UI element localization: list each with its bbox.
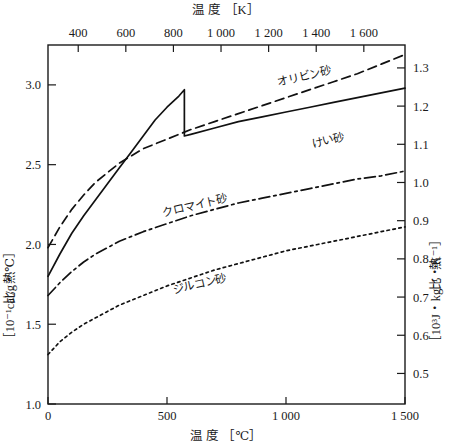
curve-4: [48, 227, 405, 355]
tick-label-right: 1.0: [413, 176, 429, 190]
data-curves: [48, 55, 405, 355]
tick-label-top: 800: [164, 26, 183, 40]
tick-label-bottom: 1 000: [272, 409, 300, 423]
bottom-axis-title: 温 度 ［℃］: [190, 428, 262, 443]
tick-label-bottom: 0: [45, 409, 51, 423]
tick-label-left: 3.0: [25, 78, 41, 92]
curve-label-1: オリビン砂: [276, 64, 333, 88]
tick-label-right: 1.1: [413, 138, 429, 152]
tick-label-right: 0.7: [413, 291, 429, 305]
tick-label-bottom: 500: [158, 409, 177, 423]
right-axis-ticks: [397, 68, 405, 374]
tick-label-right: 0.9: [413, 214, 429, 228]
curve-2: [48, 88, 405, 276]
tick-label-bottom: 1 500: [391, 409, 419, 423]
left-axis-title: 比 熱 ［10⁻¹cal/g・℃］: [3, 245, 17, 345]
curve-label-2: けい砂: [311, 130, 347, 149]
tick-label-right: 0.6: [413, 329, 429, 343]
curve-annotations: オリビン砂けい砂クロマイト砂ジルコン砂: [161, 64, 346, 296]
bottom-axis-ticks: [48, 397, 405, 404]
tick-label-left: 2.5: [25, 158, 41, 172]
left-axis-title-units: ［10⁻¹cal/g・℃］: [3, 245, 17, 345]
tick-label-top: 1 200: [255, 26, 283, 40]
tick-label-top: 600: [116, 26, 135, 40]
top-axis-tick-labels: 4006008001 0001 2001 4001 600: [69, 26, 378, 40]
right-axis-tick-labels: 0.50.60.70.80.91.01.11.21.3: [413, 61, 429, 381]
tick-label-right: 0.5: [413, 367, 429, 381]
specific-heat-chart: 4006008001 0001 2001 4001 600 05001 0001…: [0, 0, 450, 446]
tick-label-left: 1.0: [25, 398, 41, 412]
curve-1: [48, 55, 405, 248]
curve-3: [48, 171, 405, 295]
right-axis-title: 比 熱 ［10³J・kg⁻¹・K⁻¹］: [429, 233, 443, 348]
top-axis-ticks: [78, 45, 364, 52]
tick-label-right: 1.2: [413, 100, 429, 114]
tick-label-top: 1 400: [302, 26, 330, 40]
tick-label-left: 1.5: [25, 318, 41, 332]
tick-label-top: 1 000: [207, 26, 235, 40]
bottom-axis-tick-labels: 05001 0001 500: [45, 409, 419, 423]
left-axis-tick-labels: 1.01.52.02.53.0: [25, 78, 41, 411]
chart-figure: 4006008001 0001 2001 4001 600 05001 0001…: [0, 0, 450, 446]
curve-label-3: クロマイト砂: [161, 192, 229, 219]
right-axis-title-units: ［10³J・kg⁻¹・K⁻¹］: [429, 233, 443, 348]
tick-label-top: 1 600: [350, 26, 378, 40]
tick-label-top: 400: [69, 26, 88, 40]
tick-label-right: 0.8: [413, 252, 429, 266]
top-axis-title: 温 度 ［K］: [192, 2, 259, 17]
tick-label-left: 2.0: [25, 238, 41, 252]
tick-label-right: 1.3: [413, 61, 429, 75]
